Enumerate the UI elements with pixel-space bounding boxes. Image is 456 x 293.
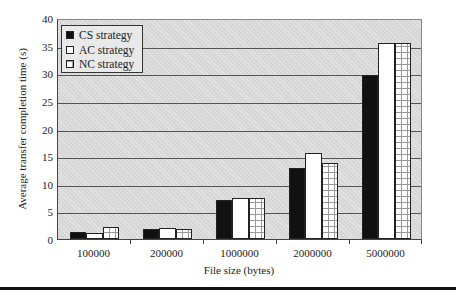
x-tick-label: 200000: [150, 247, 183, 259]
bar-nc-5000000: [395, 43, 412, 239]
y-tick-label: 40: [42, 13, 53, 25]
y-tick-label: 10: [42, 179, 53, 191]
legend-item-ac: AC strategy: [66, 43, 138, 58]
y-tick-label: 25: [42, 96, 53, 108]
x-tick-mark: [421, 240, 422, 244]
x-tick-mark: [276, 240, 277, 244]
y-tick-label: 30: [42, 68, 53, 80]
bar-ac-100000: [86, 233, 103, 239]
bar-ac-1000000: [232, 198, 249, 239]
bar-cs-1000000: [216, 200, 233, 239]
bar-cs-2000000: [289, 168, 306, 239]
legend: CS strategy AC strategy NC strategy: [61, 25, 143, 73]
nc-swatch-icon: [66, 60, 74, 68]
x-tick-label: 1000000: [220, 247, 259, 259]
x-tick-label: 5000000: [366, 247, 405, 259]
legend-item-nc: NC strategy: [66, 57, 138, 72]
y-tick-label: 0: [48, 234, 54, 246]
y-tick-label: 35: [42, 41, 53, 53]
cs-swatch-icon: [66, 31, 74, 39]
bottom-rule: [0, 287, 456, 290]
x-tick-mark: [349, 240, 350, 244]
chart-figure: Average transfer completion time (s) 051…: [0, 0, 456, 293]
x-tick-mark: [203, 240, 204, 244]
bar-cs-100000: [70, 232, 87, 239]
bar-nc-2000000: [322, 163, 339, 239]
x-tick-mark: [130, 240, 131, 244]
bar-nc-1000000: [249, 198, 266, 239]
legend-label: AC strategy: [79, 44, 134, 56]
bar-cs-5000000: [362, 75, 379, 239]
y-tick-label: 5: [48, 206, 54, 218]
x-tick-label: 100000: [77, 247, 110, 259]
bar-nc-100000: [103, 227, 120, 239]
y-tick-label: 20: [42, 124, 53, 136]
bar-ac-5000000: [378, 43, 395, 239]
bar-cs-200000: [143, 229, 160, 239]
bar-ac-200000: [159, 228, 176, 239]
bar-nc-200000: [176, 229, 193, 239]
legend-label: NC strategy: [79, 58, 134, 70]
legend-item-cs: CS strategy: [66, 28, 138, 43]
y-tick-label: 15: [42, 151, 53, 163]
y-axis-label: Average transfer completion time (s): [16, 48, 28, 210]
x-tick-label: 2000000: [293, 247, 332, 259]
bar-ac-2000000: [305, 153, 322, 239]
x-axis-label: File size (bytes): [204, 264, 274, 276]
legend-label: CS strategy: [79, 29, 132, 41]
ac-swatch-icon: [66, 46, 74, 54]
